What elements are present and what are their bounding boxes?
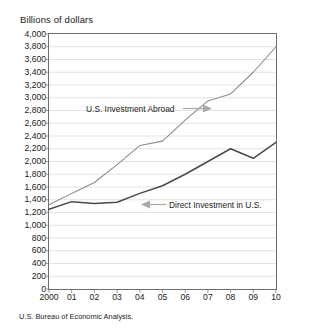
annotation-arrows xyxy=(0,0,316,329)
series-label-direct-investment-in-us: Direct Investment in U.S. xyxy=(169,200,262,210)
chart-figure: Billions of dollars 02004006008001,0001,… xyxy=(0,0,316,329)
series-label-us-investment-abroad: U.S. Investment Abroad xyxy=(86,104,174,114)
source-note: U.S. Bureau of Economic Analysis. xyxy=(19,312,133,321)
